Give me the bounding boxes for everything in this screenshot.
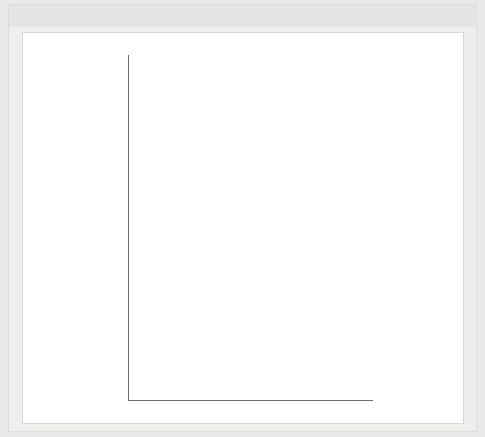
x-axis-line (128, 400, 373, 401)
y-axis-line (128, 55, 129, 401)
plot-area (129, 55, 372, 400)
figure-page (0, 0, 485, 437)
y-axis-tick-labels (76, 0, 124, 437)
